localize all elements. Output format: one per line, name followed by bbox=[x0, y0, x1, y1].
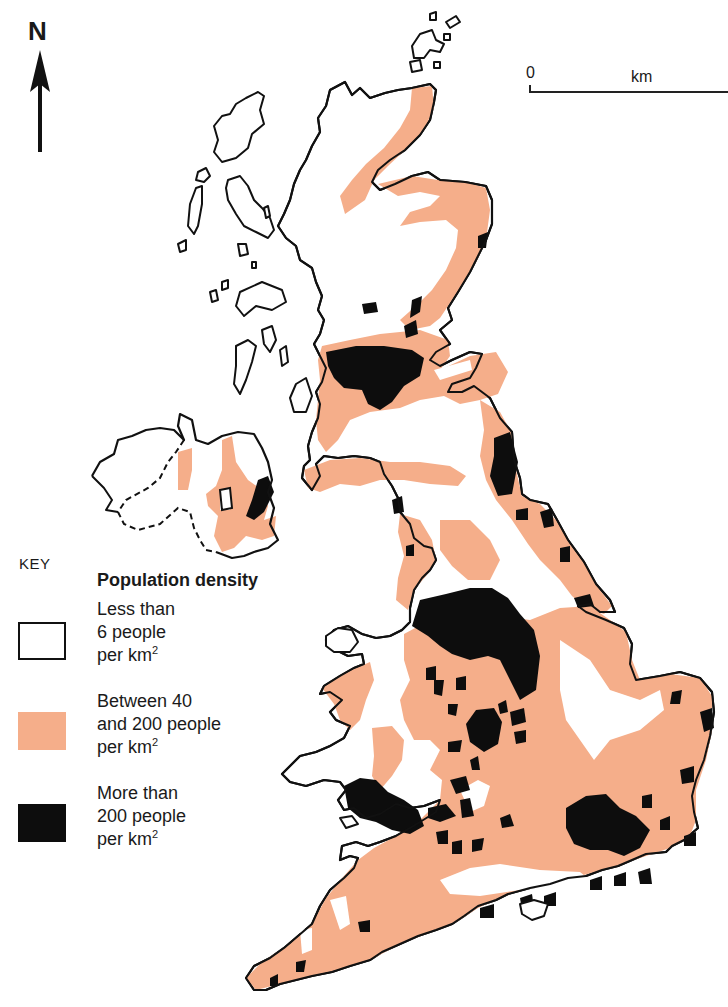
legend-label-medium: Between 40 and 200 people per km2 bbox=[97, 690, 327, 759]
uk-population-map bbox=[0, 0, 728, 1007]
legend-label-low: Less than 6 people per km2 bbox=[97, 598, 327, 667]
legend-heading: Population density bbox=[97, 570, 258, 591]
scale-unit-label: km bbox=[631, 68, 652, 86]
legend-label-high: More than 200 people per km2 bbox=[97, 782, 327, 851]
legend-swatch-medium bbox=[18, 712, 66, 750]
key-title: KEY bbox=[19, 555, 51, 572]
legend-swatch-high bbox=[18, 804, 66, 842]
scale-bar: 0 km bbox=[526, 64, 728, 94]
scale-start-label: 0 bbox=[526, 64, 535, 82]
legend-swatch-low bbox=[18, 622, 66, 660]
north-arrow-icon bbox=[24, 28, 64, 168]
scale-line bbox=[529, 85, 728, 93]
